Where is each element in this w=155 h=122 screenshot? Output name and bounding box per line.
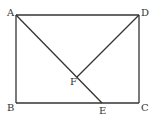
geometry-diagram: A D B C E F xyxy=(0,0,155,122)
label-point-a: A xyxy=(6,7,15,18)
segment-df xyxy=(77,15,139,77)
segment-ae xyxy=(16,15,102,103)
label-point-e: E xyxy=(99,105,106,116)
label-point-c: C xyxy=(141,102,149,113)
label-point-d: D xyxy=(141,7,149,18)
label-point-f: F xyxy=(70,76,77,87)
label-point-b: B xyxy=(7,102,14,113)
